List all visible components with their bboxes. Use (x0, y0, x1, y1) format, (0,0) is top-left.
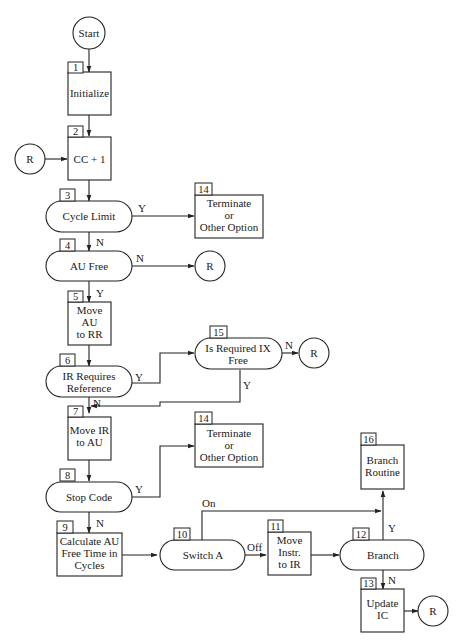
node-7-move-ir-to-au: 7 Move IR to AU (68, 406, 111, 460)
edge-label-8-y: Y (135, 483, 143, 495)
node-number: 8 (65, 470, 70, 481)
node-label: Move IR (70, 424, 110, 436)
node-16-branch-routine: 16 Branch Routine (361, 433, 404, 489)
node-number: 2 (73, 126, 78, 137)
node-label: Update (367, 597, 399, 609)
node-label: to RR (77, 328, 104, 340)
flowchart: Y N N Y Y N N Y Y N On Off Y N Start 1 I… (0, 0, 458, 644)
node-connector-r-13: R (418, 596, 448, 626)
node-label: CC + 1 (74, 153, 106, 165)
node-number: 7 (73, 406, 78, 417)
node-14a-terminate: 14 Terminate or Other Option (195, 183, 263, 238)
edge-label-3-y: Y (138, 202, 146, 214)
edge-label-10-off: Off (247, 541, 262, 553)
edge-label-15-n: N (285, 339, 293, 351)
node-label: R (310, 347, 318, 359)
edge-label-10-on: On (202, 497, 216, 509)
edge-label-3-n: N (96, 236, 104, 248)
node-label: Terminate (207, 427, 252, 439)
node-label: Start (79, 27, 100, 39)
edge-label-12-y: Y (388, 522, 396, 534)
node-start: Start (73, 17, 105, 49)
node-number: 14 (198, 413, 209, 424)
node-label: R (429, 605, 437, 617)
edge-label-6-n: N (93, 397, 101, 409)
node-label: Routine (365, 466, 400, 478)
node-label: Calculate AU (60, 535, 120, 547)
node-label: IC (377, 609, 388, 621)
node-number: 5 (73, 291, 78, 302)
node-label: IR Requires (63, 370, 116, 382)
edge-labels: Y N N Y Y N N Y Y N On Off Y N (93, 202, 396, 586)
node-label: to AU (76, 436, 103, 448)
node-label: Move (277, 534, 303, 546)
node-15-is-required-ix-free: 15 Is Required IX Free (195, 326, 282, 369)
node-label: or (224, 209, 234, 221)
node-number: 6 (65, 355, 70, 366)
node-label: Branch (367, 454, 399, 466)
node-label: R (206, 260, 214, 272)
node-number: 16 (363, 434, 374, 445)
node-label: Stop Code (66, 491, 112, 503)
node-label: AU Free (70, 260, 108, 272)
node-connector-r-15: R (299, 338, 329, 368)
node-14b-terminate: 14 Terminate or Other Option (195, 412, 263, 467)
node-label: Branch (367, 549, 399, 561)
node-label: Cycles (75, 559, 105, 571)
node-label: Move (77, 304, 103, 316)
node-label: Terminate (207, 197, 252, 209)
edge-label-4-n: N (136, 252, 144, 264)
node-connector-r-in: R (15, 144, 45, 174)
edge-label-12-n: N (388, 574, 396, 586)
node-label: Other Option (200, 451, 259, 463)
node-label: Cycle Limit (63, 210, 116, 222)
node-12-branch: 12 Branch (340, 528, 424, 570)
node-label: to IR (278, 558, 301, 570)
node-number: 1 (73, 62, 78, 73)
node-number: 15 (213, 327, 224, 338)
node-label: Is Required IX (205, 342, 270, 354)
node-label: Initialize (70, 87, 109, 99)
edge-label-8-n: N (96, 517, 104, 529)
node-label: R (26, 153, 34, 165)
node-label: Reference (67, 382, 112, 394)
node-number: 9 (62, 522, 67, 533)
node-label: Other Option (200, 221, 259, 233)
node-11-move-instr-to-ir: 11 Move Instr. to IR (268, 520, 311, 575)
edge-label-15-y: Y (243, 379, 251, 391)
edge-label-4-y: Y (96, 287, 104, 299)
edge-label-6-y: Y (135, 371, 143, 383)
node-number: 11 (270, 521, 280, 532)
node-label: AU (82, 316, 98, 328)
node-number: 14 (198, 184, 209, 195)
node-label: Free (228, 354, 248, 366)
node-label: or (224, 439, 234, 451)
node-connector-r-4: R (195, 251, 225, 281)
node-label: Switch A (183, 549, 224, 561)
node-number: 4 (65, 240, 71, 251)
node-number: 10 (177, 529, 188, 540)
node-label: Free Time in (61, 547, 118, 559)
node-number: 13 (363, 578, 374, 589)
node-label: Instr. (278, 546, 301, 558)
node-number: 3 (65, 190, 70, 201)
node-number: 12 (356, 529, 367, 540)
